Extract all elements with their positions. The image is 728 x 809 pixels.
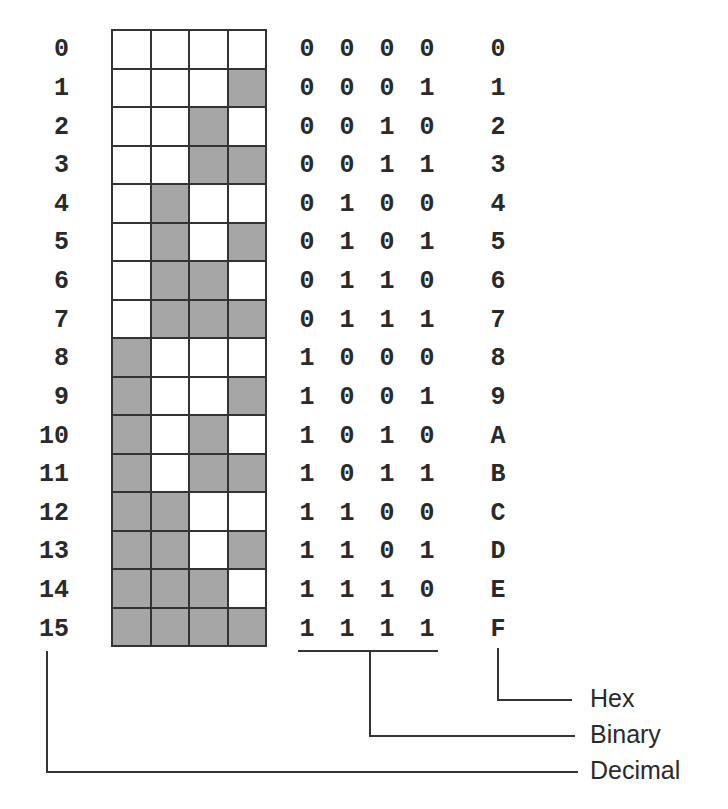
binary-digit: 1 xyxy=(335,192,359,217)
hex-value: 4 xyxy=(486,192,510,217)
filled-cell xyxy=(112,569,151,608)
binary-digit: 1 xyxy=(295,424,319,449)
filled-cell xyxy=(228,69,267,108)
empty-cell xyxy=(189,30,228,69)
empty-cell xyxy=(228,261,267,300)
filled-cell xyxy=(228,223,267,262)
filled-cell xyxy=(228,608,267,647)
binary-digit: 1 xyxy=(335,269,359,294)
binary-digit: 1 xyxy=(295,385,319,410)
filled-cell xyxy=(151,569,190,608)
decimal-value: 6 xyxy=(19,269,69,294)
filled-cell xyxy=(189,415,228,454)
decimal-value: 2 xyxy=(19,115,69,140)
hex-value: 9 xyxy=(486,385,510,410)
empty-cell xyxy=(189,184,228,223)
filled-cell xyxy=(151,223,190,262)
empty-cell xyxy=(112,261,151,300)
filled-cell xyxy=(189,608,228,647)
binary-digit: 0 xyxy=(415,192,439,217)
binary-digit: 0 xyxy=(335,76,359,101)
decimal-value: 7 xyxy=(19,308,69,333)
filled-cell xyxy=(151,531,190,570)
binary-bracket-line xyxy=(298,650,438,652)
empty-cell xyxy=(228,107,267,146)
hex-value: 0 xyxy=(486,37,510,62)
binary-digit: 0 xyxy=(375,539,399,564)
binary-digit: 1 xyxy=(295,501,319,526)
filled-cell xyxy=(112,531,151,570)
hex-value: F xyxy=(486,617,510,642)
decimal-value: 9 xyxy=(19,385,69,410)
empty-cell xyxy=(151,377,190,416)
empty-cell xyxy=(112,69,151,108)
empty-cell xyxy=(228,569,267,608)
hex-value: 8 xyxy=(486,346,510,371)
binary-digit: 1 xyxy=(415,76,439,101)
binary-digit: 1 xyxy=(375,462,399,487)
filled-cell xyxy=(228,146,267,185)
binary-digit: 0 xyxy=(415,37,439,62)
hex-value: 7 xyxy=(486,308,510,333)
binary-digit: 1 xyxy=(415,462,439,487)
binary-digit: 0 xyxy=(295,230,319,255)
binary-digit: 0 xyxy=(415,501,439,526)
filled-cell xyxy=(189,146,228,185)
hex-value: A xyxy=(486,424,510,449)
binary-digit: 0 xyxy=(375,192,399,217)
binary-digit: 0 xyxy=(375,501,399,526)
empty-cell xyxy=(189,492,228,531)
empty-cell xyxy=(112,107,151,146)
binary-digit: 1 xyxy=(415,539,439,564)
empty-cell xyxy=(151,107,190,146)
empty-cell xyxy=(189,531,228,570)
binary-connector-horizontal xyxy=(369,735,575,737)
binary-digit: 1 xyxy=(295,578,319,603)
empty-cell xyxy=(189,223,228,262)
binary-digit: 1 xyxy=(335,617,359,642)
empty-cell xyxy=(112,300,151,339)
filled-cell xyxy=(228,454,267,493)
binary-digit: 1 xyxy=(375,269,399,294)
empty-cell xyxy=(228,30,267,69)
binary-digit: 0 xyxy=(295,115,319,140)
decimal-value: 12 xyxy=(19,501,69,526)
hex-value: B xyxy=(486,462,510,487)
binary-digit: 0 xyxy=(375,385,399,410)
filled-cell xyxy=(151,261,190,300)
empty-cell xyxy=(189,338,228,377)
filled-cell xyxy=(228,300,267,339)
hex-value: 2 xyxy=(486,115,510,140)
binary-digit: 1 xyxy=(415,308,439,333)
decimal-value: 11 xyxy=(19,462,69,487)
filled-cell xyxy=(189,261,228,300)
binary-digit: 0 xyxy=(375,37,399,62)
binary-digit: 0 xyxy=(375,346,399,371)
binary-digit: 1 xyxy=(375,617,399,642)
binary-digit: 0 xyxy=(415,115,439,140)
filled-cell xyxy=(189,454,228,493)
filled-cell xyxy=(112,377,151,416)
binary-digit: 1 xyxy=(335,578,359,603)
binary-digit: 0 xyxy=(375,230,399,255)
hex-value: D xyxy=(486,539,510,564)
hex-value: C xyxy=(486,501,510,526)
binary-digit: 1 xyxy=(295,462,319,487)
filled-cell xyxy=(112,415,151,454)
binary-digit: 0 xyxy=(295,192,319,217)
filled-cell xyxy=(189,107,228,146)
binary-digit: 0 xyxy=(295,308,319,333)
binary-digit: 1 xyxy=(295,617,319,642)
empty-cell xyxy=(228,415,267,454)
decimal-value: 0 xyxy=(19,37,69,62)
filled-cell xyxy=(228,531,267,570)
filled-cell xyxy=(228,377,267,416)
filled-cell xyxy=(151,184,190,223)
decimal-value: 1 xyxy=(19,76,69,101)
binary-digit: 1 xyxy=(415,617,439,642)
empty-cell xyxy=(151,30,190,69)
binary-connector-vertical xyxy=(369,651,371,736)
binary-digit: 1 xyxy=(335,230,359,255)
filled-cell xyxy=(189,569,228,608)
filled-cell xyxy=(151,608,190,647)
